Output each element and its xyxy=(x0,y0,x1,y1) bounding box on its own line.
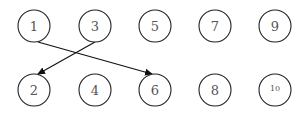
node-6: 6 xyxy=(139,74,171,106)
node-label: 4 xyxy=(91,83,99,98)
node-label: 9 xyxy=(271,19,279,34)
graph-diagram: 1 3 5 7 9 2 4 6 8 10 xyxy=(0,0,306,117)
node-label: 10 xyxy=(270,84,280,93)
node-label: 7 xyxy=(211,19,219,34)
node-7: 7 xyxy=(199,10,231,42)
node-label: 6 xyxy=(151,83,159,98)
node-2: 2 xyxy=(18,74,50,106)
node-3: 3 xyxy=(79,10,111,42)
node-10: 10 xyxy=(259,74,291,106)
node-8: 8 xyxy=(199,74,231,106)
node-label: 5 xyxy=(151,19,159,34)
node-label: 3 xyxy=(91,19,99,34)
node-5: 5 xyxy=(139,10,171,42)
node-4: 4 xyxy=(79,74,111,106)
node-label: 2 xyxy=(30,83,38,98)
edge-1-to-6 xyxy=(38,42,152,74)
node-label: 8 xyxy=(211,83,219,98)
node-9: 9 xyxy=(259,10,291,42)
node-label: 1 xyxy=(30,19,38,34)
edge-3-to-2 xyxy=(38,42,95,74)
node-1: 1 xyxy=(18,10,50,42)
